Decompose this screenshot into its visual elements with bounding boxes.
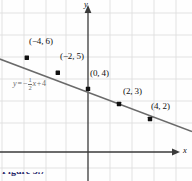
equation-lhs: y [13,80,17,88]
x-axis-label: x [183,145,187,155]
point-label-4-2: (4, 2) [151,101,170,111]
x-axis [0,149,180,156]
equation-label: y = − 1 2 x + 4 [13,77,46,91]
equation-variable: x [32,80,36,88]
equation-constant: 4 [42,80,46,88]
point-label-neg4-6: (−4, 6) [29,36,53,46]
figure-caption: Figure 5.7 [0,172,192,181]
equation-equals: = [18,80,23,88]
y-axis-label: y [84,0,88,9]
figure-caption-text: Figure 5.7 [2,172,45,176]
graph-figure: y x (−4, 6) (−2, 5) (0, 4) (2, 3) (4, 2)… [0,0,192,181]
point-label-0-4: (0, 4) [90,68,109,78]
point-label-neg2-5: (−2, 5) [60,51,84,61]
equation-plus: + [37,80,42,88]
point-label-2-3: (2, 3) [123,86,142,96]
